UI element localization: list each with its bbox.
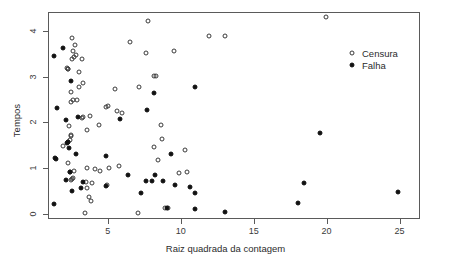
data-point-falha: [150, 178, 155, 183]
data-point-falha: [192, 191, 197, 196]
data-point-falha: [143, 179, 148, 184]
data-point-censura: [81, 81, 86, 86]
data-point-censura: [71, 55, 76, 60]
y-tick: [43, 31, 48, 32]
data-point-falha: [118, 117, 123, 122]
data-point-falha: [61, 46, 66, 51]
data-point-falha: [138, 191, 143, 196]
x-tick: [254, 219, 255, 224]
data-point-falha: [169, 152, 174, 157]
data-point-falha: [51, 53, 56, 58]
data-point-falha: [318, 130, 323, 135]
data-point-censura: [80, 56, 85, 61]
x-tick-label: 25: [395, 226, 405, 236]
data-point-falha: [54, 156, 59, 161]
plot-area: [48, 12, 420, 219]
data-point-censura: [75, 97, 80, 102]
data-point-censura: [136, 211, 141, 216]
data-point-falha: [55, 105, 60, 110]
data-point-censura: [89, 199, 94, 204]
data-point-censura: [223, 33, 228, 38]
data-point-censura: [159, 137, 164, 142]
data-point-falha: [193, 207, 198, 212]
data-point-censura: [107, 166, 112, 171]
y-tick-label: 4: [28, 29, 38, 34]
x-tick-label: 20: [322, 226, 332, 236]
data-point-censura: [97, 169, 102, 174]
y-tick: [43, 168, 48, 169]
legend-label-censura: Censura: [362, 48, 398, 60]
data-point-censura: [85, 185, 90, 190]
data-point-censura: [72, 42, 77, 47]
y-tick-label: 1: [28, 165, 38, 170]
data-point-censura: [137, 85, 142, 90]
x-tick: [327, 219, 328, 224]
data-point-censura: [113, 86, 118, 91]
data-point-censura: [97, 122, 102, 127]
y-tick: [43, 122, 48, 123]
data-point-falha: [164, 206, 169, 211]
data-point-censura: [76, 85, 81, 90]
data-point-falha: [223, 210, 228, 215]
data-point-falha: [160, 179, 165, 184]
data-point-censura: [90, 181, 95, 186]
data-point-censura: [87, 113, 92, 118]
data-point-censura: [185, 170, 190, 175]
data-point-falha: [103, 154, 108, 159]
data-point-censura: [68, 90, 73, 95]
data-point-censura: [119, 110, 124, 115]
data-point-censura: [104, 105, 109, 110]
data-point-falha: [172, 182, 177, 187]
data-point-censura: [159, 123, 164, 128]
x-axis-title: Raiz quadrada da contagem: [0, 243, 451, 254]
y-tick: [43, 77, 48, 78]
data-point-censura: [145, 19, 150, 24]
data-point-censura: [65, 161, 70, 166]
data-point-falha: [67, 170, 72, 175]
data-point-falha: [126, 172, 131, 177]
filled-circle-icon: [350, 63, 355, 68]
data-point-censura: [144, 51, 149, 56]
data-point-censura: [207, 33, 212, 38]
data-point-censura: [67, 123, 72, 128]
data-point-falha: [75, 114, 80, 119]
data-point-falha: [78, 185, 83, 190]
data-point-censura: [66, 66, 71, 71]
data-point-censura: [84, 166, 89, 171]
x-tick: [108, 219, 109, 224]
x-tick-label: 15: [249, 226, 259, 236]
y-tick-label: 0: [28, 211, 38, 216]
data-point-falha: [67, 145, 72, 150]
y-tick: [43, 214, 48, 215]
data-point-censura: [156, 158, 161, 163]
data-point-censura: [72, 168, 77, 173]
data-point-falha: [302, 181, 307, 186]
x-tick-label: 10: [176, 226, 186, 236]
data-point-falha: [68, 79, 73, 84]
data-point-falha: [187, 184, 192, 189]
data-point-censura: [80, 115, 85, 120]
data-point-falha: [70, 189, 75, 194]
data-point-falha: [104, 183, 109, 188]
x-tick: [400, 219, 401, 224]
data-point-censura: [177, 170, 182, 175]
y-axis-title: Tempos: [11, 91, 22, 151]
data-point-censura: [68, 100, 73, 105]
data-point-censura: [84, 128, 89, 133]
data-point-falha: [296, 200, 301, 205]
data-point-censura: [69, 178, 74, 183]
scatter-plot-figure: 510152025 01234 Raiz quadrada da contage…: [0, 0, 451, 267]
data-point-censura: [70, 35, 75, 40]
x-tick: [181, 219, 182, 224]
x-tick-label: 5: [105, 226, 110, 236]
data-point-falha: [74, 151, 79, 156]
data-point-falha: [81, 179, 86, 184]
data-point-falha: [51, 202, 56, 207]
data-point-censura: [323, 15, 328, 20]
y-tick-label: 2: [28, 120, 38, 125]
data-point-censura: [117, 163, 122, 168]
data-point-censura: [172, 48, 177, 53]
data-point-censura: [77, 70, 82, 75]
data-point-censura: [128, 40, 133, 45]
data-point-censura: [153, 74, 158, 79]
